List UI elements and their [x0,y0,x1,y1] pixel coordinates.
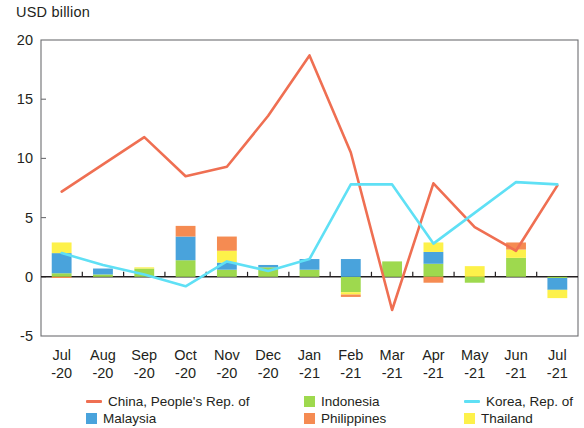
chart-plot-area: 20151050-5Jul-20Aug-20Sep-20Oct-20Nov-20… [0,0,584,390]
legend-label-malaysia: Malaysia [103,411,156,426]
bar-segment [465,266,485,277]
y-axis-tick-label: 10 [17,150,33,166]
bar-segment [424,252,444,264]
x-axis-tick-label-month: Mar [380,347,405,363]
legend-label-korea: Korea, Rep. of [486,394,573,409]
bar-segment [176,237,196,261]
x-axis-tick-label-month: Jun [504,347,527,363]
philippines-box-swatch-icon [304,413,315,424]
x-axis-tick-label-month: Dec [255,347,281,363]
legend-item-china[interactable]: China, People's Rep. of [86,394,304,409]
bar-segment [547,277,567,278]
bar-segment [341,295,361,297]
bar-segment [134,267,154,268]
y-axis-tick-label: 15 [17,91,33,107]
x-axis-tick-label-year: -21 [423,365,444,381]
indonesia-box-swatch-icon [304,396,315,407]
bar-segment [341,292,361,294]
legend-item-indonesia[interactable]: Indonesia [304,394,464,409]
x-axis-tick-label-year: -20 [51,365,72,381]
x-axis-tick-label-year: -20 [258,365,279,381]
bar-segment [52,277,72,278]
x-axis-tick-label-year: -20 [134,365,155,381]
legend-label-indonesia: Indonesia [321,394,380,409]
x-axis-tick-label-year: -21 [382,365,403,381]
bar-segment [547,278,567,290]
malaysia-box-swatch-icon [86,413,97,424]
bar-segment [93,269,113,275]
bar-segment [52,273,72,277]
bar-segment [300,270,320,277]
legend-label-philippines: Philippines [321,411,386,426]
x-axis-tick-label-year: -20 [92,365,113,381]
legend-item-philippines[interactable]: Philippines [304,411,464,426]
legend-label-china: China, People's Rep. of [108,394,249,409]
chart-container: USD billion 20151050-5Jul-20Aug-20Sep-20… [0,0,584,428]
x-axis-tick-label-year: -20 [175,365,196,381]
legend-row-1: China, People's Rep. of Indonesia Korea,… [86,394,584,409]
chart-legend: China, People's Rep. of Indonesia Korea,… [0,394,584,426]
bar-segment [217,237,237,251]
x-axis-tick-label-year: -21 [547,365,568,381]
bar-segment [176,226,196,237]
x-axis-tick-label-month: Nov [214,347,241,363]
bar-segment [258,265,278,267]
x-axis-tick-label-year: -21 [340,365,361,381]
x-axis-tick-label-month: Oct [174,347,197,363]
bar-segment [465,277,485,283]
korea-line-swatch-icon [464,400,480,403]
y-axis-tick-label: 20 [17,32,33,48]
x-axis-tick-label-month: Jan [298,347,321,363]
bar-segment [382,261,402,276]
bar-segment [176,260,196,277]
legend-item-thailand[interactable]: Thailand [464,411,533,426]
y-axis-tick-label: 0 [25,269,33,285]
legend-item-malaysia[interactable]: Malaysia [86,411,304,426]
x-axis-tick-label-month: Jul [548,347,567,363]
bar-segment [341,259,361,277]
thailand-box-swatch-icon [464,413,475,424]
x-axis-tick-label-year: -21 [299,365,320,381]
x-axis-tick-label-year: -20 [216,365,237,381]
x-axis-tick-label-month: May [461,347,489,363]
bar-segment [506,258,526,277]
bar-segment [547,290,567,298]
x-axis-tick-label-month: Aug [90,347,116,363]
x-axis-tick-label-month: Apr [422,347,445,363]
china-line-swatch-icon [86,400,102,403]
bar-segment [341,277,361,292]
x-axis-tick-label-year: -21 [464,365,485,381]
legend-label-thailand: Thailand [481,411,533,426]
bar-segment [424,277,444,283]
bar-segment [217,270,237,277]
bar-segment [93,274,113,276]
y-axis-tick-label: -5 [20,328,33,344]
legend-item-korea[interactable]: Korea, Rep. of [464,394,573,409]
x-axis-tick-label-month: Sep [131,347,157,363]
y-axis-tick-label: 5 [25,210,33,226]
x-axis-tick-label-month: Jul [52,347,71,363]
x-axis-tick-label-month: Feb [338,347,363,363]
bar-segment [52,242,72,253]
bar-segment [424,264,444,277]
x-axis-tick-label-year: -21 [506,365,527,381]
legend-row-2: Malaysia Philippines Thailand [86,411,584,426]
